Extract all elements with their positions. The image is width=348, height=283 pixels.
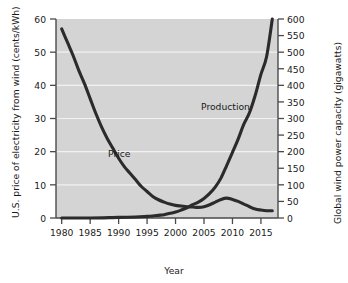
plot-canvas [0,0,348,283]
y-axis-right-tick-400: 400 [287,80,313,91]
y-axis-right-tick-500: 500 [287,47,313,58]
production-series-label: Production [201,101,250,112]
y-axis-right-title: Global wind power capacity (gigawatts) [322,0,336,225]
y-axis-left-tick-30: 30 [20,113,46,124]
y-axis-right-tick-300: 300 [287,113,313,124]
y-axis-right-ticks [278,19,284,218]
y-axis-right-tick-550: 550 [287,30,313,41]
y-axis-left-tick-0: 0 [20,213,46,224]
y-axis-right-tick-200: 200 [287,146,313,157]
y-axis-right-tick-250: 250 [287,130,313,141]
y-axis-left-tick-50: 50 [20,47,46,58]
y-axis-left-tick-60: 60 [20,14,46,25]
y-axis-left-ticks [50,19,56,218]
price-series-label: Price [108,148,130,159]
y-axis-right-tick-350: 350 [287,97,313,108]
y-axis-left-tick-20: 20 [20,146,46,157]
y-axis-left-tick-10: 10 [20,180,46,191]
y-axis-right-tick-100: 100 [287,180,313,191]
chart-figure: U.S. price of electricity from wind (cen… [0,0,348,283]
y-axis-right-tick-0: 0 [287,213,313,224]
y-axis-left-title: U.S. price of electricity from wind (cen… [0,0,14,220]
y-axis-right-tick-450: 450 [287,64,313,75]
y-axis-right-tick-600: 600 [287,14,313,25]
y-axis-right-tick-50: 50 [287,196,313,207]
x-axis-tick-2015: 2015 [244,227,278,238]
y-axis-left-tick-40: 40 [20,80,46,91]
y-axis-right-title-text: Global wind power capacity (gigawatts) [332,42,343,224]
y-axis-right-tick-150: 150 [287,163,313,174]
x-axis-title: Year [0,265,348,276]
